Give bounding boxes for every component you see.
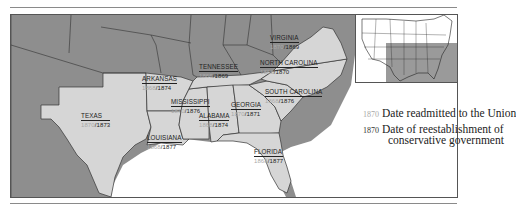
conservative-date: 1874 [215,122,229,128]
state-name: VIRGINIA [270,34,299,43]
readmitted-date: 1868 [147,144,161,150]
state-label-arkansas: ARKANSAS 1868/1874 [142,75,177,92]
readmitted-date: 1868 [254,158,268,164]
legend-sample-year: 1870 [363,126,379,135]
state-label-florida: FLORIDA 1868/1877 [254,148,283,165]
state-name: ALABAMA [199,112,229,121]
conservative-date: 1871 [247,111,261,117]
state-name: NORTH CAROLINA [260,59,318,68]
legend-item-readmitted: 1870Date readmitted to the Union [363,108,516,120]
conservative-date: 1874 [158,85,172,91]
readmitted-date: 1866 [199,73,213,79]
state-label-virginia: VIRGINIA 1870/1869 [270,34,299,51]
readmitted-date: 1870 [81,122,95,128]
readmitted-date: 1868 [260,69,274,75]
conservative-date: 1877 [270,158,284,164]
readmitted-date: 1868 [199,122,213,128]
state-label-georgia: GEORGIA 1870/1871 [231,101,261,118]
state-name: MISSISSIPPI [171,98,210,107]
us-locator-map [356,15,458,82]
legend-text: Date readmitted to the Union [382,107,516,119]
state-name: SOUTH CAROLINA [265,88,322,97]
state-name: GEORGIA [231,101,261,110]
conservative-date: 1869 [286,44,300,50]
state-label-tennessee: TENNESSEE 1866/1869 [199,63,238,80]
readmitted-date: 1868 [142,85,156,91]
state-name: ARKANSAS [142,75,177,84]
readmitted-date: 1870 [171,108,185,114]
state-name: TEXAS [81,112,110,121]
legend-sample-year: 1870 [363,110,379,119]
conservative-date: 1869 [215,73,229,79]
conservative-date: 1870 [276,69,290,75]
readmitted-date: 1870 [231,111,245,117]
state-name: FLORIDA [254,148,283,157]
top-rule [10,7,457,8]
legend-text: conservative government [388,134,504,146]
state-name: LOUISIANA [147,134,182,143]
state-label-louisiana: LOUISIANA 1868/1877 [147,134,182,151]
state-label-north-carolina: NORTH CAROLINA 1868/1870 [260,59,318,76]
state-label-texas: TEXAS 1870/1873 [81,112,110,129]
conservative-date: 1873 [97,122,111,128]
conservative-date: 1876 [281,98,295,104]
legend-item-conservative-line2: conservative government [388,135,504,146]
us-locator-inset [355,15,458,83]
bottom-rule [10,203,457,204]
state-name: TENNESSEE [199,63,238,72]
readmitted-date: 1868 [265,98,279,104]
state-label-south-carolina: SOUTH CAROLINA 1868/1876 [265,88,322,105]
conservative-date: 1877 [163,144,177,150]
readmitted-date: 1870 [270,44,284,50]
state-label-alabama: ALABAMA 1868/1874 [199,112,229,129]
